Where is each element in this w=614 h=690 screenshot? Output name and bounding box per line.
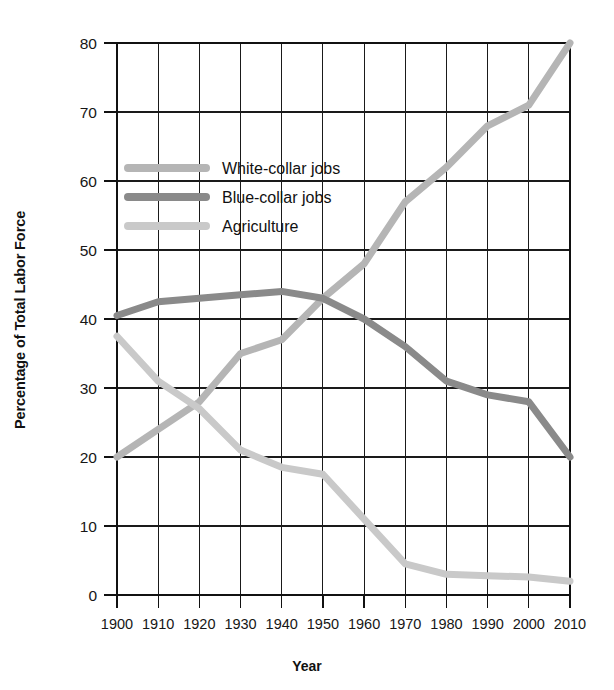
legend: White-collar jobsBlue-collar jobsAgricul… — [128, 160, 340, 235]
y-tick-labels: 01020304050607080 — [80, 35, 98, 604]
y-tick-label: 0 — [88, 587, 97, 604]
x-tick-label: 1980 — [430, 616, 462, 632]
x-tick-label: 1910 — [142, 616, 174, 632]
y-tick-label: 10 — [80, 518, 98, 535]
x-tick-label: 1970 — [389, 616, 421, 632]
x-tick-label: 1930 — [224, 616, 256, 632]
series-line — [117, 336, 570, 581]
legend-label: Agriculture — [222, 218, 299, 235]
y-tick-label: 50 — [80, 242, 98, 259]
y-tick-label: 20 — [80, 449, 98, 466]
x-tick-label: 1920 — [183, 616, 215, 632]
x-tick-label: 1960 — [348, 616, 380, 632]
x-tick-label: 1940 — [266, 616, 298, 632]
y-tick-marks — [104, 43, 117, 595]
x-axis-title: Year — [0, 658, 614, 674]
x-tick-marks — [117, 595, 570, 608]
horizontal-gridlines — [117, 43, 570, 595]
x-tick-labels: 1900191019201930194019501960197019801990… — [101, 616, 586, 632]
data-series-group — [117, 43, 570, 581]
x-tick-label: 2000 — [513, 616, 545, 632]
x-tick-label: 1990 — [472, 616, 504, 632]
x-tick-label: 1900 — [101, 616, 133, 632]
legend-label: Blue-collar jobs — [222, 189, 331, 206]
series-line — [117, 291, 570, 457]
y-tick-label: 80 — [80, 35, 98, 52]
x-tick-label: 2010 — [554, 616, 586, 632]
chart-svg: 01020304050607080 1900191019201930194019… — [0, 0, 614, 690]
legend-label: White-collar jobs — [222, 160, 340, 177]
y-tick-label: 30 — [80, 380, 98, 397]
chart-container: Percentage of Total Labor Force 01020304… — [0, 0, 614, 690]
x-tick-label: 1950 — [307, 616, 339, 632]
y-tick-label: 70 — [80, 104, 98, 121]
y-tick-label: 40 — [80, 311, 98, 328]
y-tick-label: 60 — [80, 173, 98, 190]
